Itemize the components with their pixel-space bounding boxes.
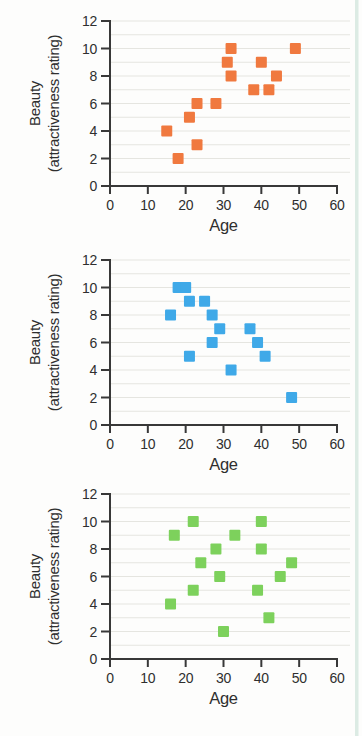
y-axis-title-line2: (attractiveness rating) (45, 508, 62, 646)
data-point (165, 310, 176, 321)
data-point (207, 337, 218, 348)
data-point (188, 516, 199, 527)
x-tick-label: 0 (106, 670, 114, 686)
data-point (218, 626, 229, 637)
scatter-chart-negative: 0246810120102030405060AgeBeauty(attracti… (26, 252, 350, 473)
data-point (207, 310, 218, 321)
y-tick-label: 0 (90, 417, 98, 433)
x-tick-label: 40 (254, 197, 269, 213)
y-tick-label: 8 (90, 68, 98, 84)
data-point (192, 139, 203, 150)
x-tick-label: 20 (178, 436, 193, 452)
data-point (199, 296, 210, 307)
data-point (192, 98, 203, 109)
x-tick-label: 20 (178, 670, 193, 686)
y-tick-label: 10 (82, 280, 97, 296)
y-tick-label: 2 (90, 390, 98, 406)
x-tick-label: 30 (216, 197, 231, 213)
scatter-plots-figure: 0246810120102030405060AgeBeauty(attracti… (0, 0, 362, 736)
data-point (271, 71, 282, 82)
data-point (226, 71, 237, 82)
x-tick-label: 50 (292, 670, 307, 686)
data-point (222, 57, 233, 68)
y-tick-label: 4 (90, 596, 98, 612)
x-tick-label: 10 (140, 670, 155, 686)
x-tick-label: 30 (216, 436, 231, 452)
x-tick-label: 50 (292, 197, 307, 213)
page-edge-stripe (355, 0, 359, 736)
y-tick-label: 6 (90, 569, 98, 585)
data-point (161, 126, 172, 137)
y-tick-label: 10 (82, 514, 97, 530)
x-axis-title: Age (209, 455, 238, 473)
y-tick-label: 4 (90, 123, 98, 139)
x-tick-label: 40 (254, 436, 269, 452)
data-point (214, 571, 225, 582)
y-tick-label: 0 (90, 178, 98, 194)
scatter-chart-positive: 0246810120102030405060AgeBeauty(attracti… (26, 13, 350, 234)
data-point (244, 323, 255, 334)
data-point (184, 296, 195, 307)
data-point (184, 351, 195, 362)
y-tick-label: 6 (90, 335, 98, 351)
x-tick-label: 10 (140, 197, 155, 213)
data-point (252, 585, 263, 596)
data-point (256, 516, 267, 527)
x-tick-label: 60 (330, 670, 345, 686)
data-point (263, 612, 274, 623)
data-point (180, 282, 191, 293)
x-axis-title: Age (209, 689, 238, 707)
data-point (226, 43, 237, 54)
x-tick-label: 60 (330, 197, 345, 213)
x-tick-label: 0 (106, 197, 114, 213)
y-axis-title-line1: Beauty (26, 553, 43, 599)
x-tick-label: 10 (140, 436, 155, 452)
data-point (226, 365, 237, 376)
y-tick-label: 0 (90, 651, 98, 667)
data-point (169, 530, 180, 541)
y-tick-label: 8 (90, 307, 98, 323)
data-point (260, 351, 271, 362)
data-point (165, 599, 176, 610)
x-axis-title: Age (209, 216, 238, 234)
data-point (252, 337, 263, 348)
data-point (214, 323, 225, 334)
data-point (290, 43, 301, 54)
data-point (188, 585, 199, 596)
y-tick-label: 2 (90, 624, 98, 640)
y-axis-title-line2: (attractiveness rating) (45, 35, 62, 173)
x-tick-label: 40 (254, 670, 269, 686)
y-tick-label: 8 (90, 541, 98, 557)
data-point (256, 544, 267, 555)
y-tick-label: 6 (90, 96, 98, 112)
x-tick-label: 20 (178, 197, 193, 213)
y-tick-label: 12 (82, 486, 97, 502)
x-tick-label: 30 (216, 670, 231, 686)
data-point (275, 571, 286, 582)
data-point (173, 153, 184, 164)
x-tick-label: 50 (292, 436, 307, 452)
data-point (184, 112, 195, 123)
y-tick-label: 12 (82, 13, 97, 29)
x-tick-label: 0 (106, 436, 114, 452)
data-point (256, 57, 267, 68)
figure-canvas: 0246810120102030405060AgeBeauty(attracti… (0, 0, 362, 736)
data-point (210, 544, 221, 555)
y-axis-title-line2: (attractiveness rating) (45, 274, 62, 412)
y-tick-label: 2 (90, 151, 98, 167)
data-point (263, 84, 274, 95)
data-point (210, 98, 221, 109)
y-tick-label: 12 (82, 252, 97, 268)
y-tick-label: 10 (82, 41, 97, 57)
y-axis-title-line1: Beauty (26, 80, 43, 126)
data-point (286, 392, 297, 403)
data-point (195, 557, 206, 568)
y-tick-label: 4 (90, 362, 98, 378)
data-point (248, 84, 259, 95)
data-point (229, 530, 240, 541)
x-tick-label: 60 (330, 436, 345, 452)
data-point (286, 557, 297, 568)
y-axis-title-line1: Beauty (26, 319, 43, 365)
scatter-chart-none: 0246810120102030405060AgeBeauty(attracti… (26, 486, 350, 707)
